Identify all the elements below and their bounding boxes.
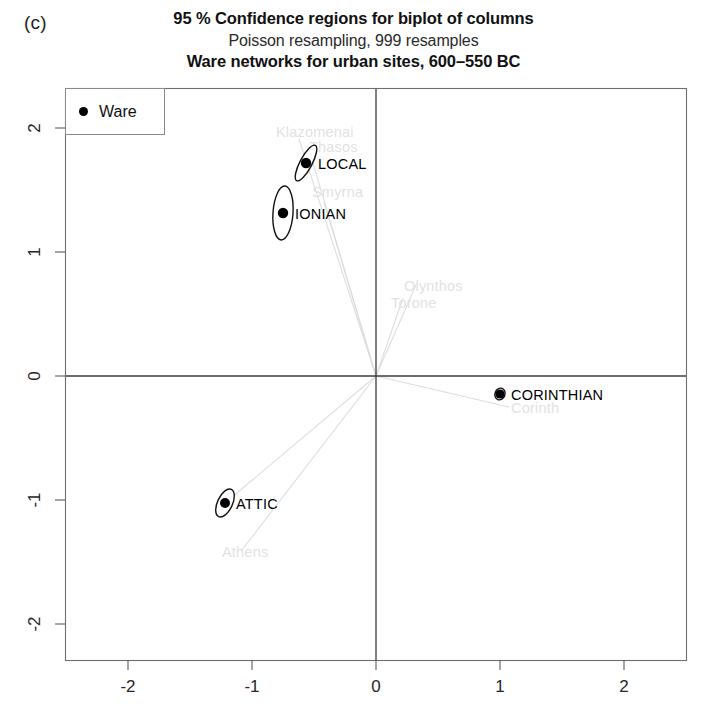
ray-attic	[225, 376, 376, 503]
ray-klazomenai	[299, 139, 376, 376]
ware-point-attic[interactable]: ATTIC	[212, 486, 278, 520]
ware-label-ionian: IONIAN	[295, 206, 346, 222]
x-tick-label: 2	[619, 677, 628, 696]
x-tick-label: 1	[495, 677, 504, 696]
ware-label-corinthian: CORINTHIAN	[511, 387, 603, 403]
ray-smyrna	[324, 202, 376, 376]
ray-athens	[242, 376, 376, 550]
ware-marker-local	[301, 158, 311, 168]
ware-point-corinthian[interactable]: CORINTHIAN	[493, 387, 603, 403]
site-label-olynthos: Olynthos	[404, 278, 463, 294]
x-tick-label: -2	[120, 677, 135, 696]
ware-label-local: LOCAL	[318, 156, 367, 172]
legend-entry-ware[interactable]: Ware	[66, 89, 164, 134]
ray-corinth	[376, 376, 509, 407]
site-label-klazomenai: Klazomenai	[276, 124, 354, 140]
x-tick-label: 0	[371, 677, 380, 696]
ware-marker-attic	[220, 498, 230, 508]
site-label-torone: Torone	[391, 295, 437, 311]
ware-label-attic: ATTIC	[236, 496, 278, 512]
site-ray-group	[225, 139, 509, 550]
y-tick-label: -1	[25, 492, 44, 507]
y-tick-label: -2	[25, 616, 44, 631]
y-tick-label: 0	[25, 371, 44, 380]
x-tick-label: -1	[244, 677, 259, 696]
legend-marker-dot-icon	[79, 107, 88, 116]
ware-marker-ionian	[278, 208, 288, 218]
site-label-smyrna: Smyrna	[312, 184, 364, 200]
x-axis-ticks: -2 -1 0 1 2	[120, 660, 628, 696]
y-tick-label: 2	[25, 123, 44, 132]
y-tick-label: 1	[25, 247, 44, 256]
site-label-athens: Athens	[222, 544, 268, 560]
y-axis-ticks: 2 1 0 -1 -2	[25, 123, 66, 631]
chart-legend[interactable]: Ware	[65, 88, 165, 135]
legend-entry-label: Ware	[99, 103, 137, 121]
ware-marker-corinthian	[495, 389, 504, 398]
